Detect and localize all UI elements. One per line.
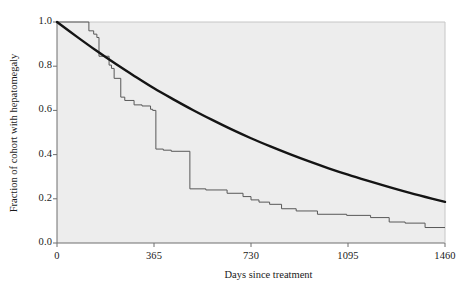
y-tick-label: 0.8 [24,59,52,70]
y-axis-title: Fraction of cohort with hepatomegaly [8,53,19,212]
y-axis-ticks [53,22,57,243]
x-tick-label: 1095 [323,250,373,261]
figure-container: 0.00.20.40.60.81.0 036573010951460 Days … [0,0,467,292]
y-tick-label: 0.0 [24,236,52,247]
y-tick-label: 0.4 [24,148,52,159]
y-tick-label: 1.0 [24,15,52,26]
x-tick-label: 0 [32,250,82,261]
y-tick-label: 0.6 [24,103,52,114]
y-tick-label: 0.2 [24,192,52,203]
x-tick-label: 1460 [420,250,467,261]
x-axis-title: Days since treatment [0,269,467,280]
chart-canvas [0,0,467,292]
x-tick-label: 365 [129,250,179,261]
y-axis-title-wrapper: Fraction of cohort with hepatomegaly [0,22,26,243]
x-axis-ticks [57,243,445,247]
plot-background [57,22,445,243]
x-tick-label: 730 [226,250,276,261]
